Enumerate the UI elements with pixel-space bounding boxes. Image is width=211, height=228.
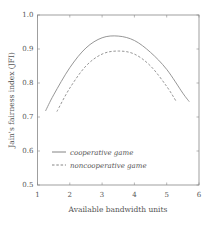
x-tick-label: 5 bbox=[164, 191, 168, 199]
y-tick-label: 0.9 bbox=[22, 45, 33, 53]
plot-area-border bbox=[38, 15, 200, 185]
x-axis-label: Available bandwidth units bbox=[68, 205, 168, 214]
y-axis-label: Jain's fairness index (JFI) bbox=[7, 52, 16, 149]
y-tick-label: 0.8 bbox=[22, 79, 33, 87]
series-line-cooperative-game bbox=[46, 36, 190, 111]
y-tick-label: 0.7 bbox=[22, 113, 33, 121]
y-tick-label: 0.5 bbox=[22, 181, 33, 189]
legend-label-noncooperative: noncooperative game bbox=[70, 162, 147, 170]
legend-label-cooperative: cooperative game bbox=[70, 149, 133, 157]
x-tick-label: 6 bbox=[197, 191, 202, 199]
plot-frame bbox=[38, 15, 200, 185]
x-axis-ticks: 123456 bbox=[35, 15, 202, 199]
x-tick-label: 3 bbox=[100, 191, 104, 199]
x-tick-label: 4 bbox=[132, 191, 137, 199]
y-tick-label: 1.0 bbox=[22, 11, 33, 19]
y-tick-label: 0.6 bbox=[22, 147, 34, 155]
x-tick-label: 2 bbox=[68, 191, 72, 199]
series-lines bbox=[46, 36, 190, 112]
x-tick-label: 1 bbox=[35, 191, 39, 199]
legend: cooperative game noncooperative game bbox=[52, 149, 147, 170]
chart: 0.50.60.70.80.91.0 123456 cooperative ga… bbox=[0, 0, 211, 228]
